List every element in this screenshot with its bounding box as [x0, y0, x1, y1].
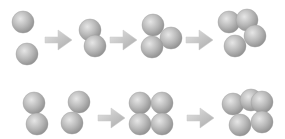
sphere-particle: [26, 113, 48, 135]
bottom-row-stage-4: [222, 89, 273, 136]
sphere-particle: [160, 27, 182, 49]
sphere-particle: [61, 112, 83, 134]
sphere-particle: [12, 11, 34, 33]
sphere-aggregation-diagram: [0, 0, 285, 139]
sphere-particle: [16, 43, 38, 65]
top-row-stage-4: [218, 9, 266, 57]
sphere-particle: [129, 92, 151, 114]
sphere-particle: [251, 91, 273, 113]
sphere-particle: [151, 92, 173, 114]
sphere-particle: [244, 25, 266, 47]
sphere-particle: [142, 14, 164, 36]
arrow-right-icon: [45, 30, 72, 50]
bottom-row-stage-3: [129, 92, 173, 135]
top-row-stage-3: [141, 14, 182, 58]
sphere-particle: [23, 92, 45, 114]
spheres-layer: [12, 9, 273, 136]
arrow-right-icon: [186, 30, 213, 50]
sphere-particle: [141, 36, 163, 58]
top-row-stage-2: [79, 19, 106, 57]
arrow-right-icon: [110, 30, 137, 50]
bottom-row-stage-2: [61, 91, 90, 134]
sphere-particle: [84, 35, 106, 57]
sphere-particle: [68, 91, 90, 113]
sphere-particle: [129, 113, 151, 135]
top-row-stage-1: [12, 11, 38, 65]
bottom-row-stage-1: [23, 92, 48, 135]
sphere-particle: [224, 35, 246, 57]
sphere-particle: [251, 111, 273, 133]
sphere-particle: [229, 114, 251, 136]
arrow-right-icon: [98, 108, 125, 128]
arrow-right-icon: [187, 108, 214, 128]
sphere-particle: [151, 113, 173, 135]
